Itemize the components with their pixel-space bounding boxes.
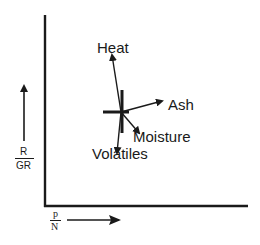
axes [44, 15, 248, 207]
y-axis-label-numerator: R [20, 147, 27, 157]
x-axis-label-numerator: p [53, 209, 58, 219]
ash-label: Ash [168, 97, 194, 112]
x-axis-label-denominator: N [51, 222, 58, 232]
ash-arrow-icon [121, 101, 162, 112]
heat-label: Heat [97, 40, 129, 55]
volatiles-label: Volatiles [92, 146, 148, 161]
y-axis-fraction-bar [15, 158, 34, 159]
heat-arrow-icon [112, 55, 121, 112]
diagram-canvas [0, 0, 260, 245]
moisture-label: Moisture [133, 129, 191, 144]
y-axis-label-denominator: GR [16, 161, 31, 171]
